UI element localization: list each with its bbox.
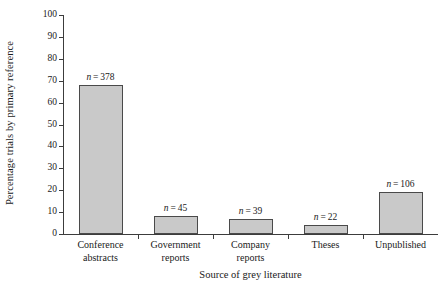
y-axis-tick-mark bbox=[59, 125, 63, 126]
x-axis-category-label-line: reports bbox=[196, 251, 306, 264]
y-axis-tick-mark bbox=[59, 103, 63, 104]
bar bbox=[229, 219, 273, 234]
y-axis-tick-mark bbox=[59, 15, 63, 16]
plot-area: 0102030405060708090100 n = 378n = 45n = … bbox=[63, 15, 438, 234]
y-axis-tick-mark bbox=[59, 212, 63, 213]
y-axis-tick-label: 20 bbox=[31, 183, 57, 195]
y-axis-tick-mark bbox=[59, 234, 63, 235]
x-axis-category-label-line: Unpublished bbox=[346, 238, 448, 251]
bar bbox=[304, 225, 348, 234]
bar-value-annotation: n = 106 bbox=[361, 178, 441, 190]
bar-value-annotation: n = 45 bbox=[136, 202, 216, 214]
bar bbox=[379, 192, 423, 234]
y-axis-tick-mark bbox=[59, 146, 63, 147]
y-axis-tick-label: 60 bbox=[31, 96, 57, 108]
y-axis-tick-mark bbox=[59, 190, 63, 191]
y-axis-tick-label: 50 bbox=[31, 118, 57, 130]
x-axis-line bbox=[63, 234, 438, 235]
bar-value-annotation: n = 39 bbox=[211, 205, 291, 217]
y-axis-tick-mark bbox=[59, 59, 63, 60]
y-axis-tick-label: 40 bbox=[31, 139, 57, 151]
bar-value-annotation: n = 22 bbox=[286, 211, 366, 223]
y-axis-title: Percentage trials by primary reference bbox=[2, 7, 18, 239]
y-axis-tick-mark bbox=[59, 37, 63, 38]
bar bbox=[79, 85, 123, 234]
bar-value-annotation: n = 378 bbox=[61, 71, 141, 83]
y-axis-tick-label: 10 bbox=[31, 205, 57, 217]
x-axis-title: Source of grey literature bbox=[63, 268, 438, 282]
bar-chart-figure: Percentage trials by primary reference 0… bbox=[0, 0, 448, 295]
y-axis-tick-mark bbox=[59, 168, 63, 169]
y-axis-tick-label: 80 bbox=[31, 52, 57, 64]
y-axis-tick-label: 30 bbox=[31, 161, 57, 173]
y-axis-tick-label: 70 bbox=[31, 74, 57, 86]
y-axis-tick-label: 100 bbox=[31, 8, 57, 20]
y-axis-line bbox=[63, 15, 64, 235]
y-axis-tick-label: 90 bbox=[31, 30, 57, 42]
x-axis-category-label: Unpublished bbox=[346, 238, 448, 251]
bar bbox=[154, 216, 198, 234]
